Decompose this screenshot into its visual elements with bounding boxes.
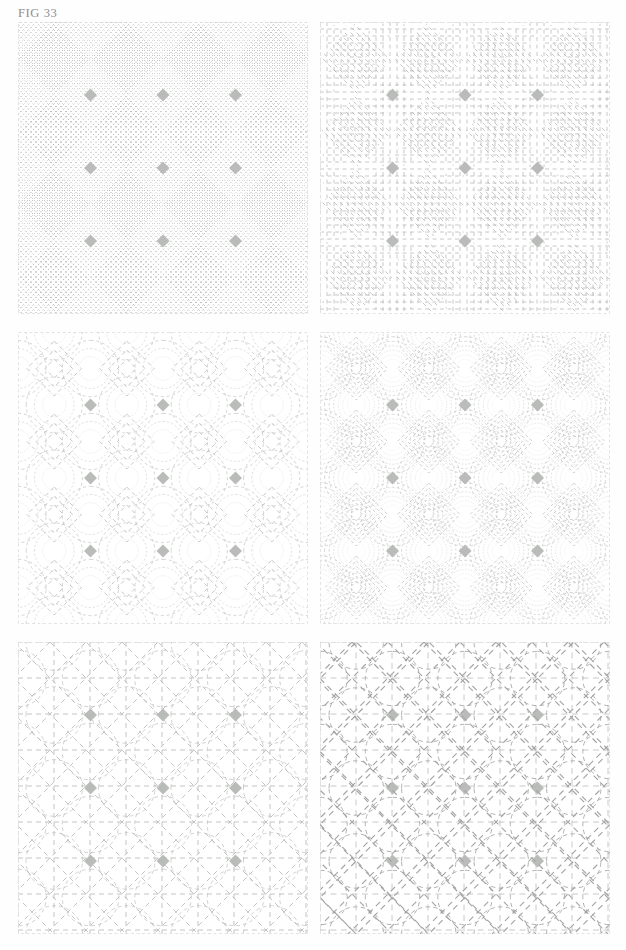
figure-label: FIG 33 [18, 6, 57, 21]
pattern-panel-3 [18, 332, 308, 624]
pattern-panel-2 [320, 22, 610, 314]
pattern-panel-5 [18, 642, 308, 934]
pattern-panel-1 [18, 22, 308, 314]
pattern-panel-6 [320, 642, 610, 934]
pattern-panel-4 [320, 332, 610, 624]
pattern-panel-grid [18, 22, 610, 934]
